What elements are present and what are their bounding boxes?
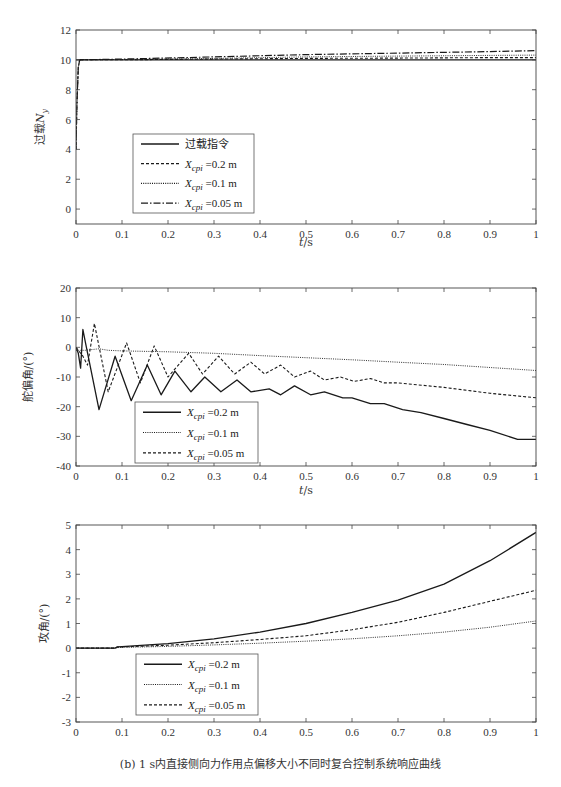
y-axis-label: 过载Ny <box>34 108 49 145</box>
x-tick-label: 0 <box>73 726 79 738</box>
x-tick-label: 1 <box>533 726 539 738</box>
figure: 00.10.20.30.40.50.60.70.80.91024681012t/… <box>0 0 561 787</box>
series-line <box>76 590 536 648</box>
y-tick-label: 1 <box>66 618 72 630</box>
chart-angle-of-attack: 00.10.20.30.40.50.60.70.80.91-3-2-101234… <box>37 519 539 738</box>
y-tick-label: 10 <box>60 312 72 324</box>
chart-rudder-deflection: 00.10.20.30.40.50.60.70.80.91-40-30-20-1… <box>21 282 539 497</box>
x-tick-label: 0.4 <box>253 726 267 738</box>
x-tick-label: 1 <box>533 470 539 482</box>
x-tick-label: 0.7 <box>391 470 405 482</box>
x-tick-label: 0.8 <box>437 228 451 240</box>
legend: Xcpi =0.2 mXcpi =0.1 mXcpi =0.05 m <box>135 402 258 463</box>
y-tick-label: 5 <box>66 519 72 531</box>
y-tick-label: 0 <box>66 341 72 353</box>
x-tick-label: 0.9 <box>483 228 497 240</box>
figure-caption: (b) 1 s内直接侧向力作用点偏移大小不同时复合控制系统响应曲线 <box>0 755 561 771</box>
y-tick-label: -10 <box>56 371 71 383</box>
x-tick-label: 0.4 <box>253 228 267 240</box>
x-tick-label: 0.2 <box>161 726 175 738</box>
series-group <box>76 532 536 648</box>
x-tick-label: 0.8 <box>437 470 451 482</box>
series-line <box>76 324 536 398</box>
x-tick-label: 0.8 <box>437 726 451 738</box>
y-axis-label: 舵偏角/(°) <box>21 352 35 403</box>
y-tick-label: 4 <box>66 544 72 556</box>
series-line <box>76 532 536 648</box>
legend: Xcpi =0.2 mXcpi =0.1 mXcpi =0.05 m <box>136 654 258 715</box>
x-tick-label: 0.4 <box>253 470 267 482</box>
y-tick-label: 2 <box>66 593 72 605</box>
y-tick-label: -20 <box>56 401 71 413</box>
x-tick-label: 0.1 <box>115 228 129 240</box>
y-tick-label: 0 <box>66 642 72 654</box>
x-tick-label: 0.2 <box>161 228 175 240</box>
x-axis-label: t/s <box>299 236 313 249</box>
x-tick-label: 0.7 <box>391 228 405 240</box>
legend: 过载指令Xcpi =0.2 mXcpi =0.1 mXcpi =0.05 m <box>133 134 254 213</box>
legend-label: 过载指令 <box>185 137 229 150</box>
x-tick-label: 1 <box>533 228 539 240</box>
y-tick-label: 3 <box>66 568 72 580</box>
x-tick-label: 0.6 <box>345 228 359 240</box>
y-tick-label: -1 <box>62 667 71 679</box>
x-tick-label: 0.5 <box>299 726 313 738</box>
series-line <box>76 621 536 648</box>
x-tick-label: 0.1 <box>115 470 129 482</box>
x-tick-label: 0.9 <box>483 470 497 482</box>
y-tick-label: -3 <box>62 716 72 728</box>
chart-overload: 00.10.20.30.40.50.60.70.80.91024681012t/… <box>34 24 539 249</box>
y-tick-label: 0 <box>66 203 72 215</box>
y-axis-label: 攻角/(°) <box>37 604 51 644</box>
x-tick-label: 0.6 <box>345 726 359 738</box>
y-tick-label: 4 <box>66 143 72 155</box>
x-tick-label: 0 <box>73 470 79 482</box>
x-tick-label: 0.3 <box>207 726 221 738</box>
x-tick-label: 0.9 <box>483 726 497 738</box>
x-tick-label: 0.1 <box>115 726 129 738</box>
x-tick-label: 0.3 <box>207 228 221 240</box>
y-tick-label: 8 <box>66 84 72 96</box>
x-axis-label: t/s <box>299 484 313 497</box>
x-tick-label: 0.2 <box>161 470 175 482</box>
y-tick-label: 20 <box>60 282 72 294</box>
series-line <box>76 349 536 371</box>
y-tick-label: -2 <box>62 691 71 703</box>
y-tick-label: 10 <box>60 54 72 66</box>
x-tick-label: 0.3 <box>207 470 221 482</box>
x-tick-label: 0 <box>73 228 79 240</box>
y-tick-label: 2 <box>66 173 72 185</box>
y-tick-label: -40 <box>56 460 71 472</box>
y-tick-label: -30 <box>56 430 71 442</box>
x-tick-label: 0.5 <box>299 470 313 482</box>
y-tick-label: 12 <box>60 24 71 36</box>
x-tick-label: 0.7 <box>391 726 405 738</box>
x-tick-label: 0.6 <box>345 470 359 482</box>
y-tick-label: 6 <box>66 114 72 126</box>
